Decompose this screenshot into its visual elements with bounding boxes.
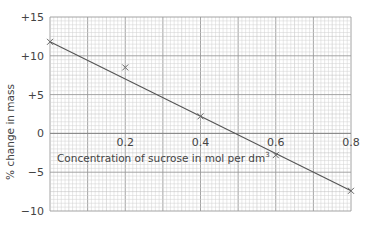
y-tick-label: +10 <box>21 50 44 63</box>
y-tick-label: +5 <box>28 89 44 102</box>
graph-paper-grid <box>50 17 351 211</box>
y-tick-label: +15 <box>21 11 44 24</box>
x-axis-title: Concentration of sucrose in mol per dm3 <box>57 151 270 164</box>
y-tick-label: 0 <box>37 127 44 140</box>
x-tick-label: 0.6 <box>267 136 285 149</box>
y-axis-tick-labels: +15+10+50−5−10 <box>21 11 44 218</box>
x-tick-label: 0.4 <box>192 136 210 149</box>
x-axis-title-superscript: 3 <box>265 151 269 159</box>
chart: +15+10+50−5−10 0.20.40.60.8 % change in … <box>0 0 372 226</box>
y-axis-title: % change in mass <box>4 84 16 180</box>
y-tick-label: −5 <box>28 166 44 179</box>
y-tick-label: −10 <box>21 205 44 218</box>
x-tick-label: 0.8 <box>342 136 360 149</box>
x-tick-label: 0.2 <box>117 136 135 149</box>
x-axis-title-text: Concentration of sucrose in mol per dm <box>57 152 265 164</box>
